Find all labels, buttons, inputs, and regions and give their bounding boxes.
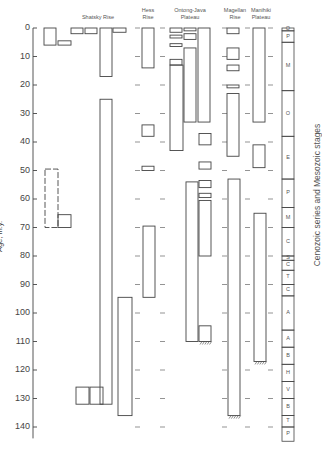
basement-hatch xyxy=(257,361,259,364)
interval-bar xyxy=(184,28,196,31)
basement-hatch xyxy=(255,361,257,364)
interval-bar xyxy=(76,387,89,404)
basement-hatch xyxy=(207,342,209,345)
stage-label: M xyxy=(282,62,294,68)
stage-label: T xyxy=(282,273,294,279)
basement-hatch xyxy=(210,342,212,345)
stage-label: A xyxy=(282,335,294,341)
interval-bar xyxy=(199,193,211,197)
basement-hatch xyxy=(205,342,207,345)
interval-bar xyxy=(71,28,83,34)
basement-hatch xyxy=(239,416,241,419)
stage-label: A xyxy=(282,309,294,315)
interval-bar xyxy=(199,180,211,187)
y-tick-label: 110 xyxy=(8,336,30,346)
stage-label: T xyxy=(282,417,294,423)
interval-bar xyxy=(186,182,198,342)
y-tick-label: 100 xyxy=(8,307,30,317)
interval-bar xyxy=(142,28,154,68)
basement-hatch xyxy=(262,361,264,364)
y-tick-label: 0 xyxy=(8,22,30,32)
interval-bar xyxy=(142,125,154,136)
stage-label: P xyxy=(282,33,294,39)
interval-bar xyxy=(227,65,239,71)
interval-bar xyxy=(254,213,266,361)
interval-bar xyxy=(227,85,239,88)
stage-label: E xyxy=(282,154,294,160)
interval-bar xyxy=(170,28,182,32)
interval-bar xyxy=(253,145,265,168)
interval-bar xyxy=(100,99,112,404)
interval-bar xyxy=(170,59,182,65)
interval-bar xyxy=(45,169,58,227)
interval-bar xyxy=(170,65,183,151)
stage-label: O xyxy=(282,110,294,116)
stage-label: H xyxy=(282,369,294,375)
interval-bar xyxy=(227,28,239,34)
interval-bar xyxy=(199,200,211,256)
interval-bar xyxy=(184,34,196,40)
y-tick-label: 80 xyxy=(8,250,30,260)
y-tick-label: 30 xyxy=(8,108,30,118)
interval-bar xyxy=(227,48,239,59)
y-tick-label: 20 xyxy=(8,79,30,89)
header-hess: Hess Rise xyxy=(138,7,158,20)
y-tick-label: 60 xyxy=(8,193,30,203)
interval-bar xyxy=(58,215,71,228)
interval-bar xyxy=(142,166,154,170)
y-tick-label: 50 xyxy=(8,165,30,175)
y-tick-label: 90 xyxy=(8,279,30,289)
interval-bar xyxy=(113,28,126,32)
interval-bar xyxy=(118,297,132,415)
y-axis-label: Age, m.y. xyxy=(0,221,4,252)
basement-hatch xyxy=(236,416,238,419)
interval-bar xyxy=(199,326,211,342)
interval-bar xyxy=(199,133,211,144)
basement-hatch xyxy=(200,342,202,345)
y-tick-label: 140 xyxy=(8,421,30,431)
y-tick-label: 10 xyxy=(8,51,30,61)
basement-hatch xyxy=(265,361,267,364)
basement-hatch xyxy=(260,361,262,364)
basement-hatch xyxy=(234,416,236,419)
stage-label: M xyxy=(282,214,294,220)
interval-bar xyxy=(199,162,211,169)
stage-label: B xyxy=(282,403,294,409)
stage-label: C xyxy=(282,286,294,292)
basement-hatch xyxy=(202,342,204,345)
stage-label: B xyxy=(282,352,294,358)
y-tick-label: 130 xyxy=(8,393,30,403)
stage-label: C xyxy=(282,261,294,267)
stage-label: Q xyxy=(282,25,294,31)
interval-bar xyxy=(170,44,182,47)
stage-label: S xyxy=(282,254,294,260)
stage-label: V xyxy=(282,386,294,392)
interval-bar xyxy=(90,387,103,404)
header-shatsky: Shatsky Rise xyxy=(68,14,128,21)
interval-bar xyxy=(100,28,112,76)
y-tick-label: 120 xyxy=(8,364,30,374)
stage-label: P xyxy=(282,189,294,195)
basement-hatch xyxy=(229,416,231,419)
interval-bar xyxy=(85,28,97,34)
interval-bar xyxy=(227,94,239,157)
stages-axis-label: Cenozoic series and Mesozoic stages xyxy=(312,124,322,267)
interval-bar xyxy=(58,41,71,45)
interval-bar xyxy=(228,179,240,416)
interval-bar xyxy=(170,35,182,38)
y-tick-label: 70 xyxy=(8,222,30,232)
stage-label: C xyxy=(282,238,294,244)
header-manihiki: Manihiki Plateau xyxy=(246,7,276,20)
interval-bar xyxy=(198,28,210,122)
interval-bar xyxy=(253,28,265,122)
basement-hatch xyxy=(231,416,233,419)
y-tick-label: 40 xyxy=(8,136,30,146)
interval-bar xyxy=(143,226,155,297)
interval-bar xyxy=(184,48,196,122)
header-ontong: Ontong-Java Plateau xyxy=(168,7,212,20)
interval-bar xyxy=(44,28,56,45)
stage-label: P xyxy=(282,430,294,436)
